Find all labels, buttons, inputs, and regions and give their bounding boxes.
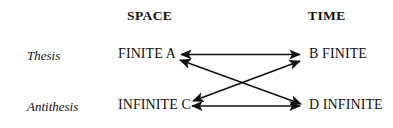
diagram-page: SPACE TIME Thesis Antithesis FINITE A B … (0, 0, 393, 128)
column-header-space: SPACE (127, 9, 172, 23)
row-header-thesis: Thesis (27, 49, 60, 62)
row-header-antithesis: Antithesis (27, 100, 78, 113)
node-d-infinite: D INFINITE (309, 98, 383, 112)
node-b-finite: B FINITE (309, 47, 367, 61)
edge-b-finite-to-infinite-c (193, 61, 300, 101)
column-header-time: TIME (308, 9, 346, 23)
node-infinite-c: INFINITE C (118, 98, 191, 112)
node-finite-a: FINITE A (118, 47, 176, 61)
